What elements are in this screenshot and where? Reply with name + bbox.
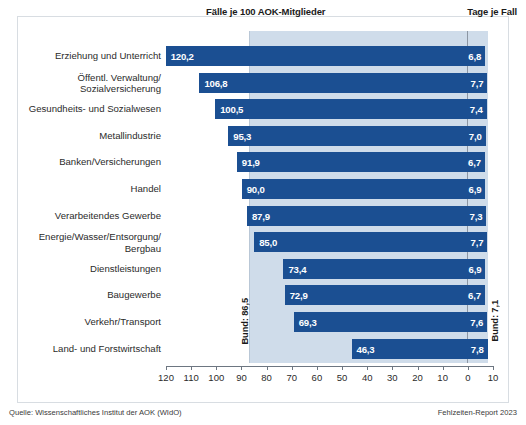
x-axis-tick [241, 366, 242, 370]
bar-cases-value: 72,9 [290, 290, 308, 301]
x-axis-tick [216, 366, 217, 370]
bar: 46,37,8 [352, 339, 488, 359]
source-note: Quelle: Wissenschaftliches Institut der … [9, 408, 182, 417]
bar: 87,97,3 [247, 206, 486, 226]
x-axis-tick-label: 40 [362, 372, 373, 383]
bar-row: Verarbeitendes Gewerbe87,97,3 [0, 203, 526, 229]
bar-row: Baugewerbe72,96,7 [0, 282, 526, 308]
x-axis-tick-label: 50 [337, 372, 348, 383]
bar: 100,57,4 [215, 99, 486, 119]
bar-row: Öffentl. Verwaltung/Sozialversicherung10… [0, 70, 526, 96]
category-label: Handel [18, 183, 161, 195]
x-axis-tick [493, 366, 494, 370]
x-axis-tick [342, 366, 343, 370]
bar-row: Handel90,06,9 [0, 176, 526, 202]
x-axis-tick-label: 110 [184, 372, 199, 383]
bar-days-value: 7,6 [470, 317, 483, 328]
bar-cases-value: 120,2 [171, 51, 194, 62]
bar-days-value: 6,9 [469, 184, 482, 195]
bar-cases-value: 90,0 [247, 184, 265, 195]
x-axis-tick-label: 20 [412, 372, 423, 383]
x-axis-tick-label: 90 [236, 372, 247, 383]
x-axis-tick-label: 120 [158, 372, 174, 383]
bar-row: Metallindustrie95,37,0 [0, 123, 526, 149]
x-axis-tick [166, 366, 167, 370]
category-label: Verarbeitendes Gewerbe [18, 210, 161, 222]
x-axis-tick-label: 0 [465, 372, 470, 383]
bar: 106,87,7 [199, 73, 487, 93]
bar-cases-value: 106,8 [204, 77, 227, 88]
category-label: Land- und Forstwirtschaft [18, 343, 161, 355]
category-label: Gesundheits- und Sozialwesen [18, 103, 161, 115]
category-label: Verkehr/Transport [18, 316, 161, 328]
category-label: Metallindustrie [18, 130, 161, 142]
category-label: Dienstleistungen [18, 263, 161, 275]
x-axis-tick [392, 366, 393, 370]
x-axis-tick [292, 366, 293, 370]
bar-days-value: 6,7 [468, 290, 481, 301]
days-column-title: Tage je Fall [467, 6, 517, 17]
bar-days-value: 7,7 [471, 237, 484, 248]
bar-cases-value: 85,0 [259, 237, 277, 248]
bar-row: Energie/Wasser/Entsorgung/Bergbau85,07,7 [0, 229, 526, 255]
x-axis-tick-label: 80 [261, 372, 272, 383]
bar: 91,96,7 [237, 152, 485, 172]
chart-footer: Quelle: Wissenschaftliches Institut der … [0, 408, 526, 420]
bar-cases-value: 46,3 [357, 343, 375, 354]
bar-row: Erziehung und Unterricht120,26,8 [0, 43, 526, 69]
bund-days-annotation: Bund: 7,1 [490, 300, 500, 341]
bar-days-value: 6,7 [468, 157, 481, 168]
bar: 69,37,6 [294, 312, 487, 332]
bar-row: Dienstleistungen73,46,9 [0, 256, 526, 282]
bar-cases-value: 100,5 [220, 104, 243, 115]
category-label: Öffentl. Verwaltung/Sozialversicherung [18, 71, 161, 94]
bar-days-value: 7,4 [470, 104, 483, 115]
bar: 95,37,0 [228, 126, 485, 146]
x-axis-tick [267, 366, 268, 370]
report-note: Fehlzeiten-Report 2023 [438, 408, 517, 417]
bar-row: Banken/Versicherungen91,96,7 [0, 149, 526, 175]
x-axis-line [166, 366, 493, 367]
x-axis-tick-label: 100 [208, 372, 224, 383]
x-axis-tick [418, 366, 419, 370]
bar-row: Gesundheits- und Sozialwesen100,57,4 [0, 96, 526, 122]
bar-row: Land- und Forstwirtschaft46,37,8 [0, 336, 526, 362]
x-axis-tick [317, 366, 318, 370]
bar-cases-value: 95,3 [233, 130, 251, 141]
bar: 73,46,9 [283, 259, 485, 279]
bar-cases-value: 69,3 [299, 317, 317, 328]
x-axis-tick-label: 60 [312, 372, 323, 383]
x-axis-tick [443, 366, 444, 370]
bar-days-value: 7,3 [470, 210, 483, 221]
x-axis-tick-label: 10 [488, 372, 499, 383]
bar: 90,06,9 [242, 179, 486, 199]
category-label: Erziehung und Unterricht [18, 50, 161, 62]
bar-cases-value: 91,9 [242, 157, 260, 168]
x-axis-tick-label: 70 [286, 372, 297, 383]
bar-days-value: 7,7 [471, 77, 484, 88]
category-label: Banken/Versicherungen [18, 157, 161, 169]
cases-column-title: Fälle je 100 AOK-Mitglieder [206, 6, 325, 17]
x-axis-tick [367, 366, 368, 370]
bar-cases-value: 87,9 [252, 210, 270, 221]
category-label: Energie/Wasser/Entsorgung/Bergbau [18, 231, 161, 254]
bar-days-value: 7,0 [469, 130, 482, 141]
x-axis-tick [191, 366, 192, 370]
bund-cases-annotation: Bund: 86,5 [240, 298, 250, 345]
bar-row: Verkehr/Transport69,37,6 [0, 309, 526, 335]
x-axis-tick-label: 30 [387, 372, 398, 383]
bar-cases-value: 73,4 [288, 263, 306, 274]
x-axis-tick [468, 366, 469, 370]
chart-header: Fälle je 100 AOK-Mitglieder Tage je Fall [0, 6, 526, 24]
bar: 85,07,7 [254, 232, 487, 252]
bar: 72,96,7 [285, 285, 485, 305]
category-label: Baugewerbe [18, 290, 161, 302]
bar: 120,26,8 [166, 46, 485, 66]
bar-days-value: 6,9 [469, 263, 482, 274]
bar-days-value: 6,8 [468, 51, 481, 62]
x-axis-tick-label: 10 [437, 372, 448, 383]
bar-days-value: 7,8 [471, 343, 484, 354]
